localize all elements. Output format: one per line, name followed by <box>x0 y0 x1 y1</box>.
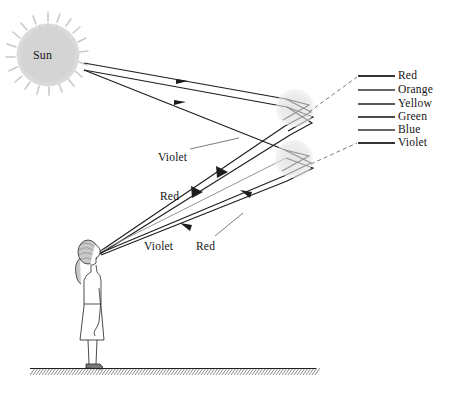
legend-label-red: Red <box>398 69 417 81</box>
sun-label: Sun <box>33 48 52 63</box>
incident-rays-upper <box>84 63 287 107</box>
lower-raindrop <box>275 140 313 178</box>
arrowhead <box>174 79 188 105</box>
ray-label-red-upper: Red <box>160 190 179 202</box>
ray-label-red-lower: Red <box>196 240 215 252</box>
legend-label-yellow: Yellow <box>398 97 432 109</box>
observer-figure <box>76 240 105 369</box>
legend-leader-lines <box>309 77 357 164</box>
legend-label-violet: Violet <box>398 136 427 148</box>
legend-swatches <box>358 76 395 143</box>
ground-line <box>30 368 320 375</box>
violet-label-leader <box>190 138 243 236</box>
ray-diagram-svg <box>0 0 453 396</box>
legend-label-blue: Blue <box>398 123 421 135</box>
arrowhead <box>191 166 228 198</box>
legend-label-orange: Orange <box>398 83 433 95</box>
ray-label-violet-upper: Violet <box>158 151 187 163</box>
arrowhead <box>180 190 252 231</box>
ray-label-violet-lower: Violet <box>144 240 173 252</box>
upper-raindrop <box>276 89 314 127</box>
legend-label-green: Green <box>398 110 427 122</box>
diagram-canvas: Sun Violet Red Violet Red Red Orange Yel… <box>0 0 453 396</box>
